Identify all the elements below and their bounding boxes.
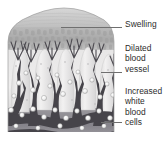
- label-swelling: Swelling: [125, 19, 166, 29]
- label-increased-white-blood-cells: Increased white blood cells: [125, 86, 166, 128]
- inflammation-diagram: Swelling Dilated blood vessel Increased …: [0, 0, 166, 142]
- inflamed-tissue-illustration: [0, 0, 122, 142]
- leader-line-dilated-blood-vessel: [101, 72, 122, 73]
- leader-line-swelling: [61, 27, 122, 28]
- leader-line-increased-white-blood-cells: [101, 122, 122, 123]
- tissue-body: [0, 0, 122, 142]
- label-dilated-blood-vessel: Dilated blood vessel: [125, 43, 166, 74]
